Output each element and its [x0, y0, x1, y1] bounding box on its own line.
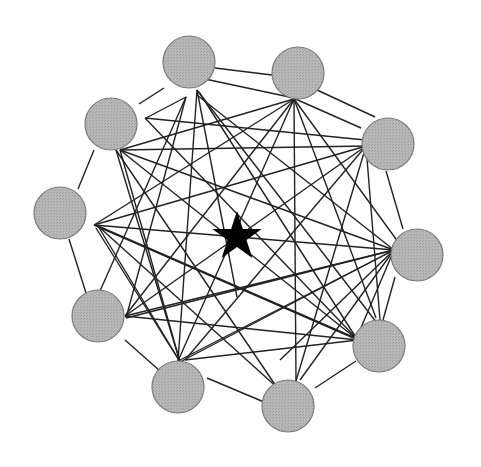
edge-line: [125, 99, 294, 316]
star-icon: [212, 211, 261, 258]
edge-line: [126, 250, 394, 318]
node-circle-g: [152, 361, 204, 413]
edge-line: [386, 171, 403, 229]
node-circle-j: [85, 98, 137, 150]
network-diagram: [0, 0, 481, 467]
edge-line: [383, 277, 395, 320]
edge-line: [199, 92, 355, 336]
edge-line: [139, 88, 164, 104]
edge-line: [125, 340, 160, 371]
node-circle-b: [272, 47, 324, 99]
edge-line: [185, 146, 366, 360]
node-circle-a: [163, 36, 215, 88]
edge-line: [78, 150, 94, 189]
center-star-icon: [212, 211, 261, 258]
edge-line: [207, 378, 264, 402]
node-circle-h: [72, 290, 124, 342]
edge-line: [294, 99, 296, 381]
edge-line: [291, 97, 361, 128]
edge-line: [146, 97, 186, 118]
node-circle-d: [391, 229, 443, 281]
edge-line: [215, 68, 272, 75]
edge-line: [185, 340, 358, 360]
edge-line: [69, 239, 86, 293]
node-circle-c: [362, 118, 414, 170]
node-circle-e: [353, 320, 405, 372]
node-circle-f: [262, 380, 314, 432]
node-circle-i: [34, 187, 86, 239]
edge-line: [315, 361, 356, 388]
edge-line: [315, 89, 375, 117]
